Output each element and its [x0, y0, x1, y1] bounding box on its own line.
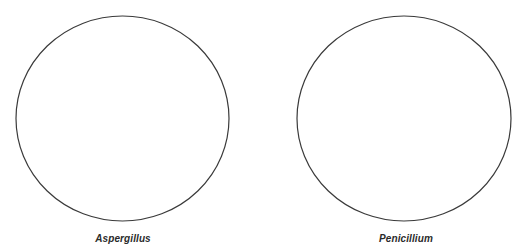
- aspergillus-circle: [16, 16, 229, 221]
- diagram-canvas: Aspergillus Penicillium: [0, 0, 521, 252]
- aspergillus-label: Aspergillus: [43, 233, 203, 245]
- diagram-svg: [0, 0, 521, 252]
- penicillium-circle: [297, 16, 511, 221]
- penicillium-label: Penicillium: [326, 233, 486, 245]
